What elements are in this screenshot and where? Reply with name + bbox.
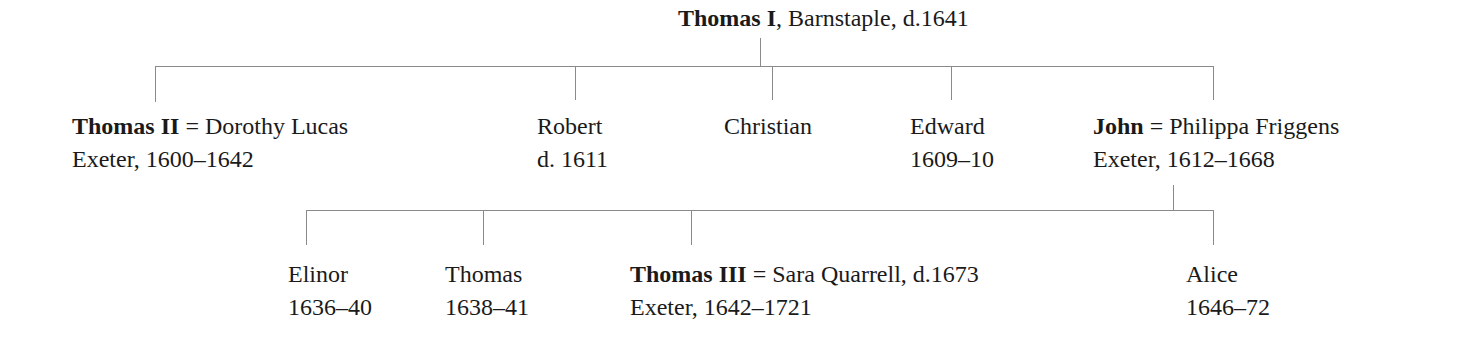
person-name: Thomas <box>445 258 529 291</box>
node-thomas-iii: Thomas III = Sara Quarrell, d.1673 Exete… <box>630 258 979 324</box>
node-thomas: Thomas 1638–41 <box>445 258 529 324</box>
connector-christian <box>772 66 773 100</box>
person-detail: Exeter, 1612–1668 <box>1093 143 1339 176</box>
person-name: Christian <box>724 110 812 143</box>
node-robert: Robert d. 1611 <box>537 110 608 176</box>
person-name: Thomas II <box>72 113 179 139</box>
node-christian: Christian <box>724 110 812 143</box>
connector-root-down <box>760 38 761 66</box>
person-detail: 1609–10 <box>910 143 994 176</box>
person-name: John <box>1093 113 1144 139</box>
person-detail: d. 1611 <box>537 143 608 176</box>
connector-alice <box>1213 210 1214 245</box>
node-john: John = Philippa Friggens Exeter, 1612–16… <box>1093 110 1339 176</box>
node-thomas-ii: Thomas II = Dorothy Lucas Exeter, 1600–1… <box>72 110 348 176</box>
spouse: = Sara Quarrell, d.1673 <box>747 261 979 287</box>
node-alice: Alice 1646–72 <box>1186 258 1270 324</box>
person-detail: Exeter, 1600–1642 <box>72 143 348 176</box>
person-name: Edward <box>910 110 994 143</box>
person-name: Alice <box>1186 258 1270 291</box>
node-edward: Edward 1609–10 <box>910 110 994 176</box>
connector-edward <box>951 66 952 100</box>
node-elinor: Elinor 1636–40 <box>288 258 372 324</box>
person-name: Thomas III <box>630 261 747 287</box>
connector-john-down <box>1173 185 1174 210</box>
person-name: Thomas I <box>678 5 776 31</box>
connector-elinor <box>306 210 307 245</box>
person-detail: 1638–41 <box>445 291 529 324</box>
person-detail: , Barnstaple, d.1641 <box>776 5 969 31</box>
person-detail: Exeter, 1642–1721 <box>630 291 979 324</box>
person-name: Robert <box>537 110 608 143</box>
spouse: = Dorothy Lucas <box>179 113 348 139</box>
person-name: Elinor <box>288 258 372 291</box>
person-detail: 1646–72 <box>1186 291 1270 324</box>
spouse: = Philippa Friggens <box>1144 113 1340 139</box>
node-thomas-i: Thomas I, Barnstaple, d.1641 <box>678 2 969 35</box>
connector-gen3-bar <box>306 210 1214 211</box>
connector-thomas-ii <box>155 66 156 102</box>
person-detail: 1636–40 <box>288 291 372 324</box>
connector-thomas <box>483 210 484 245</box>
connector-john <box>1213 66 1214 100</box>
connector-thomas-iii <box>691 210 692 245</box>
connector-gen2-bar <box>155 66 1214 67</box>
connector-robert <box>575 66 576 100</box>
